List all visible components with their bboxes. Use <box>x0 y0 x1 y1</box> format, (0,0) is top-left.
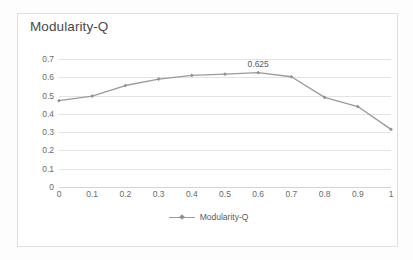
series-markers <box>57 71 393 131</box>
x-tick-label-0.5: 0.5 <box>219 189 231 199</box>
x-tick-label-0.3: 0.3 <box>153 189 165 199</box>
y-tick-label-0.4: 0.4 <box>20 109 54 119</box>
x-tick-label-0.8: 0.8 <box>319 189 331 199</box>
x-tick-label-1: 1 <box>389 189 394 199</box>
y-tick-label-0.3: 0.3 <box>20 127 54 137</box>
data-point-0.6 <box>256 71 260 75</box>
chart-frame: Modularity-Q 0.70.60.50.40.30.20.10 0.62… <box>17 13 398 247</box>
gridline-0 <box>59 187 391 188</box>
x-tick-label-0.4: 0.4 <box>186 189 198 199</box>
x-tick-label-0.7: 0.7 <box>285 189 297 199</box>
chart-title: Modularity-Q <box>30 19 108 34</box>
diamond-marker-icon <box>179 214 185 220</box>
x-tick-label-0.6: 0.6 <box>252 189 264 199</box>
x-axis: 00.10.20.30.40.50.60.70.80.91 <box>59 189 391 203</box>
y-tick-label-0.2: 0.2 <box>20 145 54 155</box>
legend-label-modularity-q: Modularity-Q <box>200 212 249 222</box>
plot-area: 0.625 <box>59 59 391 187</box>
data-label-peak: 0.625 <box>248 59 269 69</box>
chart-page: Modularity-Q 0.70.60.50.40.30.20.10 0.62… <box>0 0 413 260</box>
data-point-0 <box>57 99 61 103</box>
series-polyline <box>59 73 391 130</box>
chart-legend: Modularity-Q <box>18 212 399 222</box>
x-tick-label-0.1: 0.1 <box>86 189 98 199</box>
x-tick-label-0.9: 0.9 <box>352 189 364 199</box>
data-point-0.4 <box>190 74 194 78</box>
x-tick-label-0.2: 0.2 <box>119 189 131 199</box>
legend-symbol <box>169 213 195 222</box>
series-line-modularity-q <box>59 59 391 187</box>
y-tick-label-0.7: 0.7 <box>20 54 54 64</box>
x-tick-label-0: 0 <box>57 189 62 199</box>
y-tick-label-0: 0 <box>20 182 54 192</box>
y-tick-label-0.6: 0.6 <box>20 72 54 82</box>
y-tick-label-0.5: 0.5 <box>20 91 54 101</box>
data-point-0.2 <box>124 84 128 88</box>
data-point-0.3 <box>157 77 161 81</box>
y-tick-label-0.1: 0.1 <box>20 164 54 174</box>
data-point-0.1 <box>90 94 94 98</box>
data-point-0.5 <box>223 72 227 76</box>
y-axis: 0.70.60.50.40.30.20.10 <box>18 59 54 187</box>
